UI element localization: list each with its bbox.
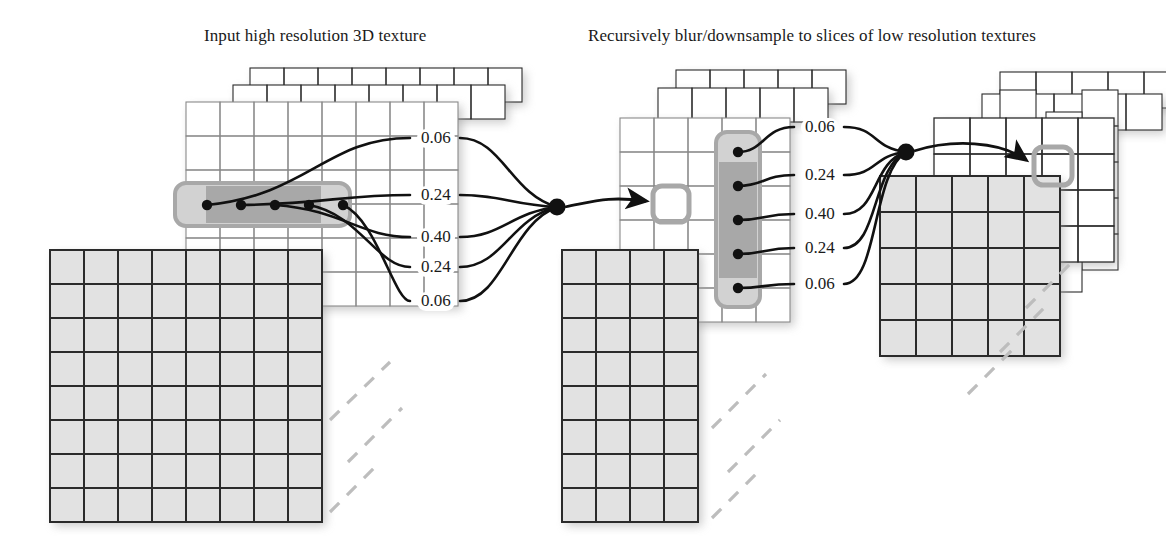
right-junction-node-core xyxy=(898,144,915,161)
weight-label-left-1: 0.06 xyxy=(417,129,455,148)
kernel-edge-mid-1 xyxy=(738,127,794,152)
weight-label-right-1: 0.06 xyxy=(801,118,839,137)
kernel-edge-mid-join-1 xyxy=(844,127,906,152)
weight-label-right-4: 0.24 xyxy=(801,239,839,258)
kernel-edge-mid-3 xyxy=(738,214,794,220)
kernel-edge-left-2 xyxy=(241,195,410,205)
kernel-edge-left-3 xyxy=(275,205,410,237)
kernel-edge-mid-join-5 xyxy=(844,152,906,284)
kernel-edge-left-join-5 xyxy=(460,207,557,301)
mid-res-result-arrow xyxy=(565,199,646,207)
kernel-edge-mid-2 xyxy=(738,175,794,186)
weight-label-right-3: 0.40 xyxy=(801,205,839,224)
weight-label-right-2: 0.24 xyxy=(801,166,839,185)
left-junction-node-core xyxy=(549,199,566,216)
kernel-edge-left-5 xyxy=(343,205,410,301)
kernel-edge-mid-5 xyxy=(738,284,794,288)
weight-label-left-2: 0.24 xyxy=(417,186,455,205)
kernel-edges-layer xyxy=(0,0,1166,551)
figure-canvas: Input high resolution 3D texture Recursi… xyxy=(0,0,1166,551)
low-res-result-arrow xyxy=(914,144,1026,160)
weight-label-left-5: 0.06 xyxy=(417,292,455,311)
weight-label-left-4: 0.24 xyxy=(417,258,455,277)
weight-label-right-5: 0.06 xyxy=(801,275,839,294)
kernel-edge-mid-4 xyxy=(738,248,794,254)
weight-label-left-3: 0.40 xyxy=(417,228,455,247)
